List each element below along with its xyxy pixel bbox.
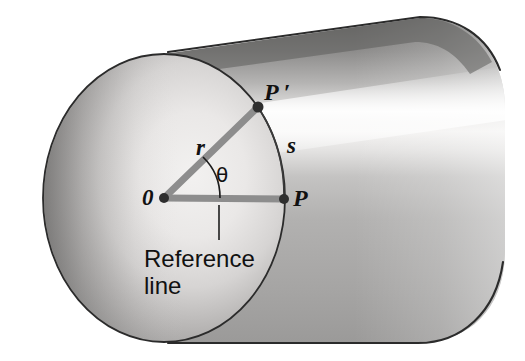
- point-p-prime-marker-dot: [253, 102, 264, 113]
- cylinder-diagram-svg: [0, 0, 525, 361]
- label-arc-length-s: s: [287, 134, 296, 157]
- reference-caption-line-1: Reference: [144, 245, 255, 272]
- point-p-marker-dot: [279, 194, 289, 204]
- label-theta: θ: [216, 165, 228, 185]
- figure-canvas: 0 r θ P ′ s P Referenceline: [0, 0, 525, 361]
- label-origin: 0: [142, 186, 154, 209]
- label-point-p-prime: P ′: [264, 80, 290, 104]
- reference-line-segment: [164, 198, 284, 199]
- reference-caption-line-2: line: [144, 272, 181, 299]
- label-reference-line: Referenceline: [144, 246, 255, 300]
- label-point-p: P: [293, 186, 308, 210]
- origin-marker-dot: [159, 193, 169, 203]
- label-radius: r: [196, 136, 205, 159]
